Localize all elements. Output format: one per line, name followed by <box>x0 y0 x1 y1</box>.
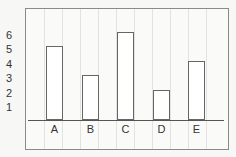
gridline <box>170 9 171 149</box>
bar-e <box>188 61 205 120</box>
gridline <box>134 9 135 149</box>
x-tick-label-c: C <box>117 123 134 135</box>
bar-a <box>46 46 63 120</box>
bar-b <box>82 75 99 120</box>
y-tick-label: 3 <box>6 73 12 84</box>
y-tick-label: 6 <box>6 30 12 41</box>
bar-c <box>117 32 134 120</box>
bar-d <box>153 90 170 120</box>
x-tick-label-d: D <box>153 123 170 135</box>
gridline <box>80 9 81 149</box>
x-tick-label-e: E <box>188 123 205 135</box>
gridline <box>44 9 45 149</box>
x-tick-label-b: B <box>82 123 99 135</box>
y-tick-label: 4 <box>6 59 12 70</box>
gridline <box>206 9 207 149</box>
x-axis-baseline <box>28 120 224 121</box>
y-tick-label: 1 <box>6 102 12 113</box>
x-tick-label-a: A <box>46 123 63 135</box>
y-tick-label: 5 <box>6 44 12 55</box>
y-tick-label: 2 <box>6 88 12 99</box>
